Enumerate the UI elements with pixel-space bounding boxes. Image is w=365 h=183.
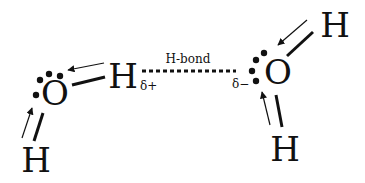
left-water-molecule: O H H δ+ — [21, 56, 157, 180]
left-bottom-oh-bond — [34, 113, 43, 141]
right-oxygen-atom: O — [264, 52, 292, 92]
left-oxygen-atom: O — [41, 73, 69, 113]
left-top-hydrogen-atom: H — [108, 56, 138, 96]
right-water-molecule: O H H δ− — [232, 5, 350, 169]
right-top-oh-bond — [287, 32, 313, 56]
right-bottom-electron-pull-arrow — [262, 92, 270, 125]
left-bottom-electron-pull-arrow — [22, 108, 32, 138]
hydrogen-bond-label: H-bond — [166, 52, 211, 66]
water-hydrogen-bond-diagram: O H H δ+ H-bond — [0, 0, 365, 183]
right-partial-negative-charge: δ− — [232, 77, 249, 91]
left-bottom-hydrogen-atom: H — [21, 140, 51, 180]
right-bottom-oh-bond — [276, 95, 282, 127]
right-bottom-hydrogen-atom: H — [270, 129, 300, 169]
hydrogen-bond: H-bond — [142, 52, 236, 71]
left-top-oh-bond — [72, 77, 105, 85]
left-top-electron-pull-arrow — [68, 63, 104, 70]
left-partial-positive-charge: δ+ — [140, 79, 157, 93]
right-top-hydrogen-atom: H — [320, 5, 350, 45]
